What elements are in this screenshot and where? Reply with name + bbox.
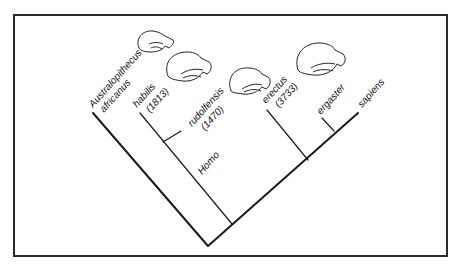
- label-ergaster: ergaster: [314, 81, 347, 116]
- branch-homo: [140, 113, 232, 224]
- branch-erectus: [267, 110, 308, 160]
- rudolfensis-skull-icon: [230, 68, 270, 94]
- branch-ergaster: [322, 118, 334, 131]
- erectus-skull-icon: [297, 43, 345, 75]
- skull-icons: [138, 31, 345, 94]
- cladogram-figure: Australopithecus africanus habilis (1813…: [0, 0, 462, 269]
- branch-main-right: [208, 113, 358, 246]
- australopithecus-skull-icon: [138, 31, 174, 52]
- branch-rudolfensis: [163, 131, 181, 142]
- branch-australopithecus: [93, 113, 208, 246]
- cladogram-tree: Australopithecus africanus habilis (1813…: [0, 0, 462, 269]
- habilis-skull-icon: [167, 52, 211, 81]
- label-sapiens: sapiens: [355, 76, 386, 109]
- label-homo-clade: Homo: [195, 149, 221, 177]
